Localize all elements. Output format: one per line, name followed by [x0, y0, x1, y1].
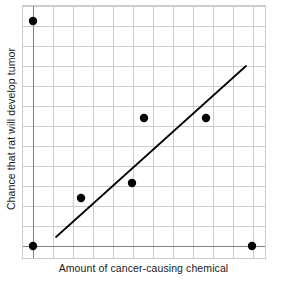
plot-canvas — [0, 0, 285, 281]
data-point — [77, 194, 85, 202]
figure-background — [0, 0, 285, 281]
data-point — [248, 242, 256, 250]
scatter-plot-figure: Chance that rat will develop tumor Amoun… — [0, 0, 285, 281]
x-axis-label: Amount of cancer-causing chemical — [22, 262, 265, 280]
data-point — [140, 114, 148, 122]
data-point — [202, 114, 210, 122]
y-axis-label: Chance that rat will develop tumor — [0, 0, 22, 258]
x-axis-label-text: Amount of cancer-causing chemical — [59, 262, 229, 274]
data-point — [29, 17, 37, 25]
data-point — [29, 242, 37, 250]
data-point — [128, 179, 136, 187]
y-axis-label-text: Chance that rat will develop tumor — [5, 48, 17, 210]
